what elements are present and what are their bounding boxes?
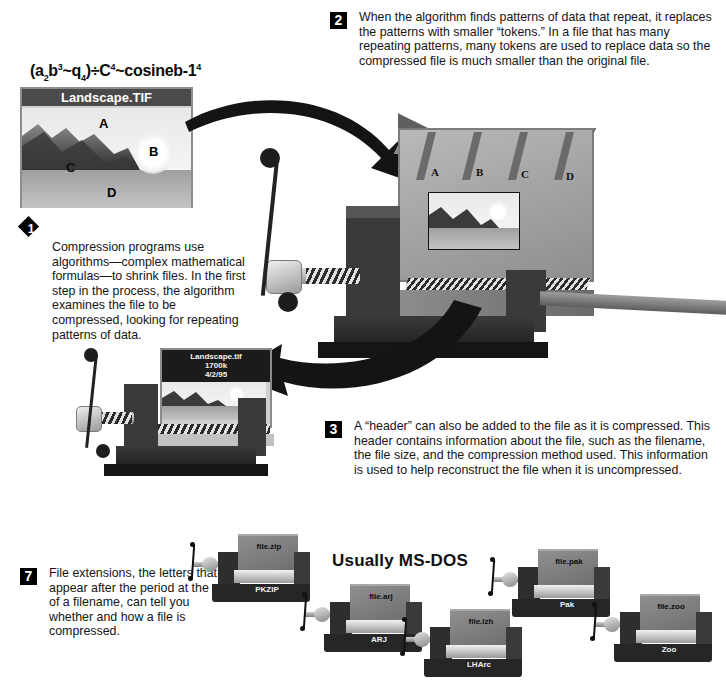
pak-hub (502, 572, 518, 587)
arj-compressed-strip (346, 620, 412, 633)
step-1-marker-number: 1 (20, 218, 42, 240)
vise-collar (266, 260, 302, 294)
small-vise-knob-top[interactable] (84, 348, 98, 362)
region-label-b: B (149, 144, 158, 159)
token-label-d: D (566, 170, 574, 182)
lzh-knob-top (402, 617, 407, 622)
pak-right-jaw (594, 567, 610, 603)
zoo-knob-top (592, 602, 597, 607)
arj-method-label: ARJ (346, 635, 412, 644)
extension-item-zoo[interactable]: file.zoo Zoo (610, 590, 714, 670)
zoo-right-jaw (696, 612, 712, 648)
step-7-block: 7 File extensions, the letters that appe… (20, 566, 235, 639)
compressed-file-vise: Landscape.tif 1700k 4/2/95 (80, 340, 310, 480)
compression-formula: (a2b3~q4)÷C4~cosineb-14 (30, 62, 201, 83)
region-label-a: A (99, 116, 108, 131)
pak-knob-top (490, 557, 495, 562)
extension-item-pak[interactable]: file.pak Pak (508, 545, 612, 625)
small-vise-threads (100, 412, 132, 424)
zip-knob-top (190, 542, 195, 547)
zoo-filename: file.zoo (642, 602, 700, 611)
arj-knob-top (302, 592, 307, 597)
original-file-title: Landscape.TIF (22, 89, 191, 108)
header-filename: Landscape.tif (162, 352, 270, 361)
file-header: Landscape.tif 1700k 4/2/95 (162, 350, 270, 382)
header-filesize: 1700k (162, 361, 270, 370)
step-2-block: 2 When the algorithm finds patterns of d… (330, 10, 716, 68)
vise-screw-threads (306, 268, 360, 284)
formula-sub-a: 2 (44, 73, 49, 83)
step-3-text: A “header” can also be added to the file… (354, 419, 715, 477)
token-label-a: A (431, 166, 439, 178)
step-2-text: When the algorithm finds patterns of dat… (359, 10, 716, 68)
zip-filename: file.zip (240, 542, 298, 551)
token-label-c: C (521, 168, 529, 180)
region-label-c: C (66, 160, 75, 175)
step-1-marker: 1 (20, 218, 42, 240)
token-chamber: A B C D (398, 128, 594, 282)
pak-knob-bottom (488, 591, 493, 596)
lzh-compressed-strip (446, 645, 512, 658)
formula-sub-q: 4 (81, 73, 86, 83)
pak-method-label: Pak (534, 600, 600, 609)
zoo-compressed-strip (636, 630, 702, 643)
formula-sup-b: 3 (58, 62, 63, 72)
pak-filename: file.pak (540, 557, 598, 566)
small-vise-knob-bottom[interactable] (96, 444, 110, 458)
landscape-scene: A B C D (22, 108, 191, 208)
header-date: 4/2/95 (162, 370, 270, 379)
lzh-right-jaw (506, 627, 522, 663)
zip-method-label: PKZIP (234, 585, 300, 594)
zip-right-jaw (294, 552, 310, 588)
small-vise-foot (104, 464, 268, 476)
step-2-marker: 2 (330, 12, 347, 29)
compressed-thumbnail (428, 192, 520, 250)
vise-crank-knob-top[interactable] (260, 148, 280, 168)
zoo-hub (604, 617, 620, 632)
vise-left-jaw-top (346, 206, 400, 218)
extension-item-arj[interactable]: file.arj ARJ (320, 580, 424, 660)
region-label-d: D (107, 185, 116, 200)
step-3-block: 3 A “header” can also be added to the fi… (325, 419, 715, 477)
zip-compressed-strip (234, 570, 300, 583)
extension-item-zip[interactable]: file.zip PKZIP (208, 530, 312, 610)
zip-knob-bottom (188, 576, 193, 581)
zoo-method-label: Zoo (636, 645, 702, 654)
lzh-knob-bottom (400, 651, 405, 656)
token-label-b: B (476, 166, 483, 178)
step-3-marker: 3 (325, 421, 342, 438)
zip-hub (202, 557, 218, 572)
usually-msdos-heading: Usually MS-DOS (332, 551, 468, 571)
formula-sup-last: 4 (196, 62, 201, 72)
lzh-hub (414, 632, 430, 647)
arj-hub (314, 607, 330, 622)
arj-knob-bottom (300, 626, 305, 631)
lzh-filename: file.lzh (452, 617, 510, 626)
zoo-knob-bottom (590, 636, 595, 641)
arj-filename: file.arj (352, 592, 410, 601)
pak-compressed-strip (534, 585, 600, 598)
step-7-marker: 7 (20, 568, 37, 585)
original-file-window[interactable]: Landscape.TIF A B C D (20, 87, 193, 208)
lzh-method-label: LHArc (446, 660, 512, 669)
thumb-mountains (429, 193, 519, 249)
small-vise-crank-bar[interactable] (85, 354, 98, 448)
formula-sup-c: 4 (111, 62, 116, 72)
